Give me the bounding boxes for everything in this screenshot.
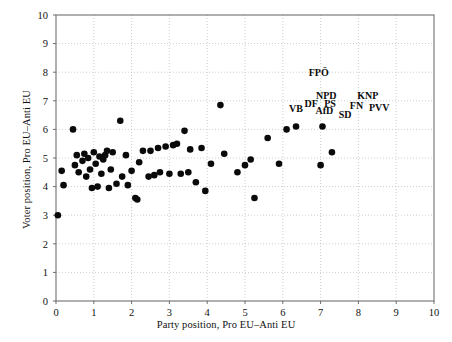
- data-point: [136, 159, 143, 166]
- data-point: [177, 170, 184, 177]
- data-point: [234, 169, 241, 176]
- data-point: [319, 123, 326, 130]
- y-axis-ticks: 012345678910: [38, 10, 57, 307]
- data-point: [60, 182, 67, 189]
- point-label-sd: SD: [339, 109, 352, 120]
- data-point: [98, 170, 105, 177]
- data-point: [104, 148, 111, 155]
- y-tick-label: 7: [43, 96, 48, 107]
- y-tick-label: 9: [43, 38, 48, 49]
- x-tick-label: 4: [205, 307, 211, 318]
- y-tick-label: 1: [43, 267, 48, 278]
- data-point: [283, 126, 290, 133]
- data-point-group: [55, 102, 336, 219]
- y-tick-label: 5: [43, 153, 48, 164]
- scatter-plot-figure: 012345678910 012345678910 FPÖVBNPDDFPSKN…: [0, 0, 452, 342]
- data-point: [106, 185, 113, 192]
- data-point: [89, 185, 96, 192]
- x-tick-label: 0: [53, 307, 58, 318]
- data-point: [140, 148, 147, 155]
- data-point: [91, 149, 98, 156]
- data-point: [75, 169, 82, 176]
- data-point: [185, 169, 192, 176]
- x-tick-label: 3: [167, 307, 172, 318]
- data-point: [70, 126, 77, 133]
- data-point: [79, 158, 86, 165]
- point-label-pvv: PVV: [369, 102, 390, 113]
- x-tick-label: 10: [429, 307, 440, 318]
- y-axis-title: Voter position, Pro EU–Anti EU: [21, 60, 32, 260]
- data-point: [293, 123, 300, 130]
- data-point: [155, 145, 162, 152]
- data-point: [58, 168, 65, 175]
- data-point: [151, 172, 158, 179]
- data-point: [87, 166, 94, 173]
- point-label-afd: AfD: [315, 105, 333, 116]
- data-point: [276, 160, 283, 167]
- data-point: [117, 118, 124, 125]
- data-point: [85, 155, 92, 162]
- x-axis-title: Party position, Pro EU–Anti EU: [0, 319, 452, 330]
- point-label-vb: VB: [289, 103, 303, 114]
- data-point: [251, 195, 258, 202]
- y-tick-label: 6: [43, 124, 48, 135]
- data-point: [247, 156, 254, 163]
- data-point: [94, 183, 101, 190]
- x-tick-label: 5: [242, 307, 247, 318]
- data-point: [162, 143, 169, 150]
- data-point: [109, 149, 116, 156]
- y-tick-label: 8: [43, 67, 48, 78]
- data-point: [181, 128, 188, 135]
- point-label-fpö: FPÖ: [309, 66, 329, 78]
- data-point: [73, 152, 80, 159]
- data-point: [123, 152, 130, 159]
- data-point: [187, 146, 194, 153]
- data-point: [264, 135, 271, 142]
- annotation-group: FPÖVBNPDDFPSKNPAfDFNPVVSD: [289, 66, 390, 119]
- data-point: [242, 162, 249, 169]
- data-point: [128, 168, 135, 175]
- data-point: [217, 102, 224, 109]
- data-point: [55, 212, 62, 219]
- data-point: [329, 149, 336, 156]
- data-point: [92, 160, 99, 167]
- y-tick-label: 3: [43, 210, 48, 221]
- data-point: [108, 166, 115, 173]
- data-point: [193, 179, 200, 186]
- data-point: [113, 180, 120, 187]
- y-tick-label: 0: [43, 296, 48, 307]
- x-axis-ticks: 012345678910: [53, 301, 439, 318]
- data-point: [157, 169, 164, 176]
- data-point: [317, 162, 324, 169]
- data-point: [145, 173, 152, 180]
- data-point: [202, 188, 209, 195]
- data-point: [198, 145, 205, 152]
- data-point: [221, 150, 228, 157]
- data-point: [83, 173, 90, 180]
- data-point: [134, 196, 141, 203]
- gridlines: [56, 15, 434, 301]
- x-tick-label: 2: [129, 307, 134, 318]
- data-point: [147, 148, 154, 155]
- y-tick-label: 2: [43, 239, 48, 250]
- x-tick-label: 9: [394, 307, 399, 318]
- x-tick-label: 8: [356, 307, 361, 318]
- x-tick-label: 7: [318, 307, 323, 318]
- x-tick-label: 1: [91, 307, 96, 318]
- data-point: [119, 173, 126, 180]
- y-tick-label: 10: [38, 10, 49, 21]
- data-point: [174, 140, 181, 147]
- y-tick-label: 4: [43, 181, 49, 192]
- data-point: [72, 162, 79, 169]
- data-point: [125, 182, 132, 189]
- data-point: [208, 160, 215, 167]
- x-tick-label: 6: [280, 307, 285, 318]
- point-label-fn: FN: [350, 100, 364, 111]
- data-point: [166, 170, 173, 177]
- scatter-plot-canvas: 012345678910 012345678910 FPÖVBNPDDFPSKN…: [0, 0, 452, 342]
